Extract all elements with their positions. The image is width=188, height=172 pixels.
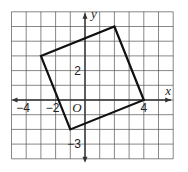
coordinate-plane: xyO−4−242−3: [0, 0, 188, 172]
y-axis-up-arrow-icon: [83, 13, 88, 19]
x-axis-right-arrow-icon: [165, 98, 171, 103]
y-axis-label: y: [89, 6, 97, 21]
x-tick-label: 4: [140, 101, 147, 115]
grid-lines: [12, 12, 174, 159]
y-tick-label: −3: [67, 137, 81, 151]
y-axis-down-arrow-icon: [83, 157, 88, 163]
x-tick-label: −2: [46, 101, 60, 115]
y-tick-label: 2: [74, 64, 81, 78]
origin-label: O: [72, 100, 82, 115]
x-axis-label: x: [164, 83, 171, 98]
x-tick-label: −4: [16, 101, 30, 115]
